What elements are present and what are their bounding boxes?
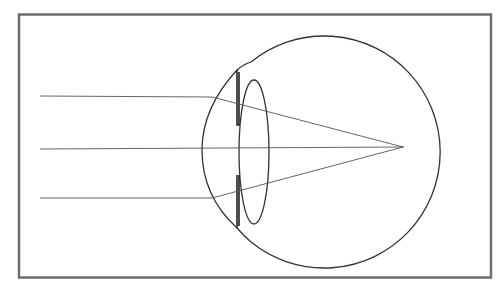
focal-point xyxy=(402,146,404,148)
eye-diagram xyxy=(0,0,502,293)
diagram-border xyxy=(19,15,491,278)
